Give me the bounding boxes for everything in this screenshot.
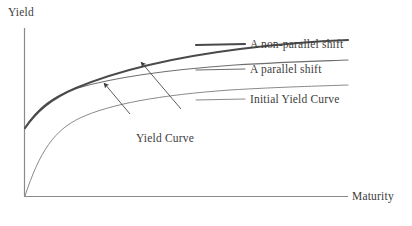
y-axis-title: Yield — [8, 7, 34, 19]
legend-swatch-non-parallel-shift — [196, 44, 245, 45]
legend-swatch-parallel-shift — [196, 69, 245, 70]
yield-curve-figure: Yield Maturity A non-parallel shift A pa… — [0, 0, 412, 226]
chart-canvas — [0, 0, 412, 226]
yield-curve-caption: Yield Curve — [136, 133, 194, 145]
curve-non-parallel-shift — [25, 40, 348, 128]
legend-swatch-initial-yield-curve — [196, 99, 245, 100]
legend-label-initial-yield-curve: Initial Yield Curve — [250, 94, 340, 106]
arrow-parallel-to-nonparallel — [141, 62, 181, 109]
legend-label-non-parallel-shift: A non-parallel shift — [250, 39, 343, 51]
legend-label-parallel-shift: A parallel shift — [250, 64, 322, 76]
x-axis-title: Maturity — [352, 191, 394, 203]
arrow-initial-to-parallel — [104, 83, 130, 114]
